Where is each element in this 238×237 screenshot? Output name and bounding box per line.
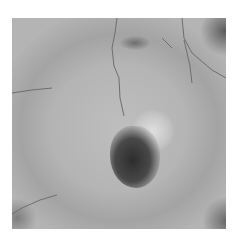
fundus-image (12, 18, 226, 229)
retinal-vessels (12, 18, 226, 229)
